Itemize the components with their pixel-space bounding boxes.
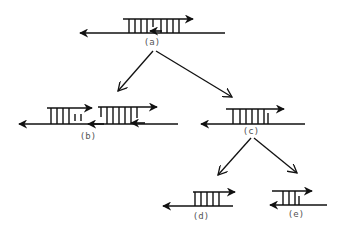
branch-arrows-a [118, 51, 232, 97]
label-c: (c) [243, 126, 259, 136]
branch-arrows-c [218, 138, 297, 175]
arrow-c-to-e [254, 138, 297, 173]
rungs-c [233, 109, 268, 124]
label-b: (b) [80, 131, 96, 141]
rungs-d [195, 192, 219, 206]
structure-a [80, 19, 225, 33]
structure-b [19, 107, 178, 124]
arrow-a-to-c [156, 51, 232, 97]
structure-c [201, 109, 305, 124]
arrow-c-to-d [218, 138, 251, 175]
structure-d [163, 192, 235, 206]
diagram-canvas: (a) (b) [0, 0, 357, 235]
label-a: (a) [144, 37, 160, 47]
structure-e [270, 191, 327, 205]
arrow-a-to-b [118, 51, 153, 91]
label-d: (d) [193, 211, 209, 221]
rungs-e [283, 191, 299, 205]
rungs-b [51, 107, 137, 124]
label-e: (e) [288, 209, 304, 219]
